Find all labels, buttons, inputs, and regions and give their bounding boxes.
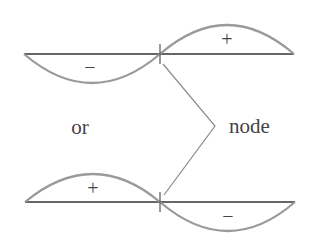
top-wave: − + [24,25,294,83]
bottom-right-sign: − [222,205,233,227]
or-label: or [71,115,89,139]
top-right-sign: + [221,28,232,50]
top-left-sign: − [84,56,95,78]
bottom-wave: + − [25,174,295,231]
bottom-left-sign: + [87,177,98,199]
node-leader-lines [163,64,215,195]
node-label: node [229,114,270,138]
node-diagram: − + or node + − [0,0,313,244]
